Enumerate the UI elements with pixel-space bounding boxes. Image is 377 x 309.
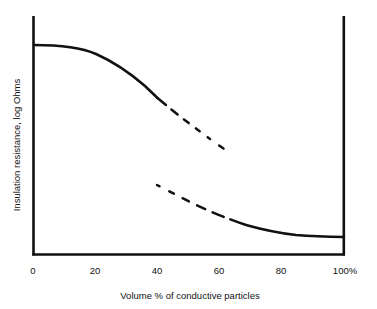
x-tick-label-80: 80 <box>276 265 287 276</box>
x-axis-title: Volume % of conductive particles <box>120 290 260 301</box>
percolation-chart: 0 20 40 60 80 100% Volume % of conductiv… <box>0 0 377 309</box>
y-axis-title: Insulation resistance, log Ohms <box>11 78 22 211</box>
x-tick-label-100: 100% <box>333 265 358 276</box>
x-tick-label-20: 20 <box>90 265 101 276</box>
x-tick-label-0: 0 <box>30 265 35 276</box>
x-tick-label-40: 40 <box>152 265 163 276</box>
x-tick-label-60: 60 <box>214 265 225 276</box>
chart-figure: 0 20 40 60 80 100% Volume % of conductiv… <box>0 0 377 309</box>
